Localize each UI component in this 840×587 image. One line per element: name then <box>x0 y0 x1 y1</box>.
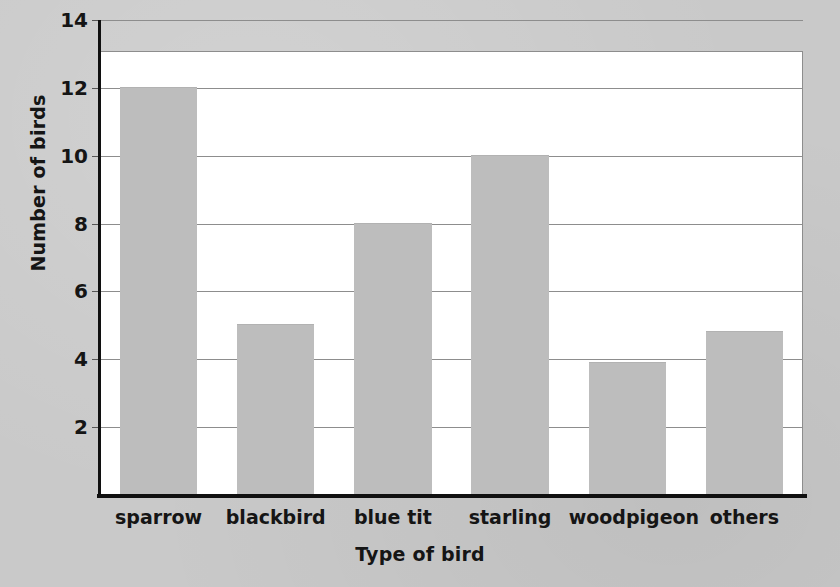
plot-top-border <box>100 51 803 52</box>
x-axis-spine <box>97 494 807 498</box>
gridline <box>100 427 803 428</box>
x-tick-label: sparrow <box>100 506 217 528</box>
y-tick-label: 4 <box>74 347 88 371</box>
plot-right-border <box>802 51 803 495</box>
gridline <box>100 359 803 360</box>
gridline <box>100 291 803 292</box>
plot-area: 1412108642 <box>100 20 803 495</box>
plot-interior-background <box>100 51 803 495</box>
y-tick-label: 10 <box>60 144 88 168</box>
y-tick-label: 8 <box>74 212 88 236</box>
x-axis-title: Type of bird <box>0 543 840 565</box>
bar-starling <box>471 155 548 495</box>
x-tick-label: woodpigeon <box>569 506 686 528</box>
bar-blackbird <box>237 324 314 495</box>
y-tick-label: 12 <box>60 76 88 100</box>
bar-others <box>706 331 783 495</box>
y-tick-label: 14 <box>60 8 88 32</box>
y-tick-label: 6 <box>74 279 88 303</box>
x-tick-label: blackbird <box>217 506 334 528</box>
gridline <box>100 88 803 89</box>
x-tick-label: starling <box>452 506 569 528</box>
bar-woodpigeon <box>589 362 666 495</box>
y-axis-title: Number of birds <box>27 73 49 293</box>
x-tick-label: others <box>686 506 803 528</box>
gridline <box>100 156 803 157</box>
x-tick-label: blue tit <box>334 506 451 528</box>
chart-page: Number of birds 1412108642 sparrowblackb… <box>0 0 840 587</box>
bar-blue-tit <box>354 223 431 495</box>
gridline <box>100 224 803 225</box>
gridline <box>100 20 803 21</box>
y-tick-label: 2 <box>74 415 88 439</box>
y-axis-spine <box>98 20 101 496</box>
bar-sparrow <box>120 87 197 495</box>
